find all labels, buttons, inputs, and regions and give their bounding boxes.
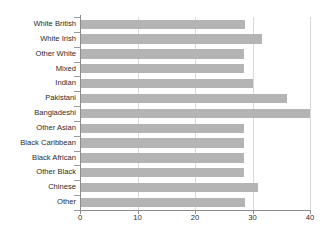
bar xyxy=(80,124,244,133)
bar xyxy=(80,64,244,73)
bar xyxy=(80,94,287,103)
x-axis-label-20: 20 xyxy=(180,213,210,223)
x-axis-label-0: 0 xyxy=(65,213,95,223)
y-axis-line xyxy=(80,15,81,211)
gridline-40 xyxy=(310,17,311,210)
bar-row xyxy=(80,76,310,91)
y-axis-label-chinese: Chinese xyxy=(48,180,76,195)
y-axis-label-white-irish: White Irish xyxy=(40,32,76,47)
bar xyxy=(80,138,244,147)
y-axis-label-white-british: White British xyxy=(33,17,76,32)
bar-row xyxy=(80,195,310,210)
bar-row xyxy=(80,91,310,106)
x-axis-label-30: 30 xyxy=(238,213,268,223)
bar-row xyxy=(80,121,310,136)
bar-row xyxy=(80,32,310,47)
bar-row xyxy=(80,165,310,180)
y-axis-label-mixed: Mixed xyxy=(56,62,76,77)
bar-chart: White BritishWhite IrishOther WhiteMixed… xyxy=(0,0,324,233)
x-axis-label-10: 10 xyxy=(123,213,153,223)
plot-area xyxy=(80,17,310,210)
bar xyxy=(80,109,310,118)
bar xyxy=(80,168,244,177)
y-axis-label-black-caribbean: Black Caribbean xyxy=(20,136,76,151)
y-axis-label-black-african: Black African xyxy=(32,151,76,166)
y-axis-label-other-asian: Other Asian xyxy=(36,121,76,136)
bar xyxy=(80,34,262,43)
bar xyxy=(80,198,245,207)
bar-row xyxy=(80,47,310,62)
y-axis-label-bangladeshi: Bangladeshi xyxy=(34,106,76,121)
y-axis-label-other-black: Other Black xyxy=(36,165,76,180)
bar xyxy=(80,49,244,58)
x-axis-label-40: 40 xyxy=(295,213,324,223)
bar xyxy=(80,79,253,88)
y-axis-label-other: Other xyxy=(57,195,76,210)
bar-row xyxy=(80,62,310,77)
bar xyxy=(80,20,245,29)
bar xyxy=(80,183,258,192)
bar-row xyxy=(80,106,310,121)
y-axis-label-indian: Indian xyxy=(55,76,76,91)
bar-row xyxy=(80,17,310,32)
chart-title-remnant xyxy=(56,0,116,4)
bar-row xyxy=(80,151,310,166)
y-axis-label-pakistani: Pakistani xyxy=(45,91,76,106)
bar-row xyxy=(80,180,310,195)
y-axis-label-other-white: Other White xyxy=(35,47,76,62)
bar-row xyxy=(80,136,310,151)
bar xyxy=(80,153,244,162)
